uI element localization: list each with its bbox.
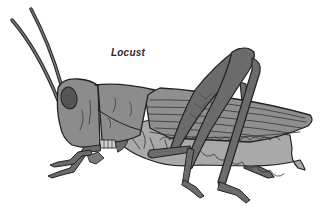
locust-illustration: Locust	[0, 0, 327, 218]
front-legs	[48, 145, 104, 178]
illustration-label: Locust	[111, 47, 145, 58]
head	[57, 79, 100, 148]
antennae	[12, 9, 61, 100]
locust-drawing	[0, 0, 327, 218]
